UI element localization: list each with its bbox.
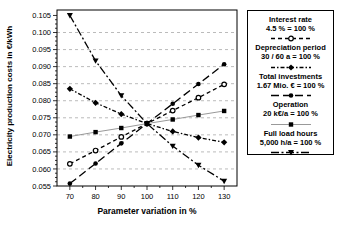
legend-entry-title: Full load hours	[264, 129, 318, 138]
marker-filled-triangle-down	[67, 13, 73, 18]
marker-open-circle	[93, 148, 98, 153]
legend-entry-total-investments: Total investments1.67 Mio. € = 100 %	[249, 72, 332, 100]
legend-entry-title: Depreciation period	[255, 43, 325, 52]
legend-symbol-full-load-hours	[269, 148, 313, 157]
y-axis: 0.0550.0600.0650.0700.0750.0800.0850.090…	[32, 11, 57, 191]
y-gridlines	[57, 33, 237, 169]
plot-frame	[57, 10, 237, 186]
marker-filled-circle	[196, 82, 201, 87]
marker-filled-triangle-down	[221, 179, 227, 184]
marker-filled-square	[222, 109, 226, 113]
marker-filled-circle	[119, 141, 124, 146]
y-tick-label: 0.080	[32, 96, 51, 105]
x-axis-title: Parameter variation in %	[57, 206, 237, 216]
legend-entry-value: 30 / 60 a = 100 %	[261, 52, 320, 61]
legend-entry-title: Total investments	[259, 72, 322, 81]
marker-filled-circle	[93, 161, 98, 166]
legend-entry-interest-rate: Interest rate4.5 % = 100 %	[249, 15, 332, 43]
marker-filled-circle	[68, 181, 73, 186]
marker-filled-square	[171, 117, 175, 121]
marker-filled-square	[288, 122, 292, 126]
y-tick-label: 0.070	[32, 130, 51, 139]
x-tick-label: 80	[91, 192, 99, 201]
x-tick-label: 130	[218, 192, 231, 201]
marker-filled-diamond	[195, 134, 201, 140]
marker-open-circle	[119, 135, 124, 140]
marker-filled-circle	[222, 62, 227, 67]
x-axis: 708090100110120130	[66, 186, 231, 201]
marker-filled-diamond	[118, 111, 124, 117]
x-tick-label: 100	[141, 192, 154, 201]
legend-symbol-total-investments	[269, 91, 313, 100]
marker-filled-square	[93, 130, 97, 134]
marker-open-circle	[196, 95, 201, 100]
marker-open-circle	[288, 37, 293, 42]
legend-entry-depreciation-period: Depreciation period30 / 60 a = 100 %	[249, 43, 332, 71]
y-tick-label: 0.075	[32, 113, 51, 122]
marker-filled-square	[119, 126, 123, 130]
y-tick-label: 0.085	[32, 79, 51, 88]
legend-entry-full-load-hours: Full load hours5,000 h/a = 100 %	[249, 129, 332, 157]
legend-entry-value: 5,000 h/a = 100 %	[260, 138, 322, 147]
y-tick-label: 0.065	[32, 147, 51, 156]
y-tick-label: 0.095	[32, 45, 51, 54]
legend-symbol-interest-rate	[269, 34, 313, 43]
y-tick-label: 0.100	[32, 28, 51, 37]
legend-entry-value: 20 k€/a = 100 %	[263, 109, 318, 118]
y-axis-title: Electricity production costs in €/kWh	[5, 8, 17, 184]
legend-entry-value: 1.67 Mio. € = 100 %	[257, 81, 325, 90]
legend-symbol-depreciation-period	[269, 63, 313, 72]
y-tick-label: 0.090	[32, 62, 51, 71]
y-tick-label: 0.105	[32, 11, 51, 20]
marker-open-circle	[170, 108, 175, 113]
marker-open-circle	[222, 82, 227, 87]
legend-box: Interest rate4.5 % = 100 %Depreciation p…	[247, 10, 334, 155]
marker-filled-diamond	[170, 128, 176, 134]
legend-entry-title: Operation	[273, 100, 308, 109]
y-tick-label: 0.060	[32, 165, 51, 174]
marker-filled-diamond	[67, 86, 73, 92]
legend-entry-value: 4.5 % = 100 %	[266, 24, 315, 33]
x-tick-label: 110	[167, 192, 179, 201]
series-full-load-hours	[67, 13, 227, 184]
marker-filled-square	[68, 134, 72, 138]
x-tick-label: 120	[192, 192, 205, 201]
marker-filled-triangle-down	[93, 58, 99, 63]
marker-filled-diamond	[221, 139, 227, 145]
x-tick-label: 90	[117, 192, 125, 201]
marker-filled-triangle-down	[118, 93, 124, 98]
legend-entry-title: Interest rate	[269, 15, 312, 24]
legend-entry-operation: Operation20 k€/a = 100 %	[249, 100, 332, 128]
marker-filled-square	[196, 113, 200, 117]
x-tick-label: 70	[66, 192, 74, 201]
figure: 0.0550.0600.0650.0700.0750.0800.0850.090…	[0, 0, 337, 229]
y-tick-label: 0.055	[32, 182, 51, 191]
marker-filled-diamond	[287, 64, 293, 70]
marker-filled-circle	[288, 93, 293, 98]
legend-symbol-operation	[269, 120, 313, 129]
marker-filled-triangle-down	[195, 163, 201, 168]
marker-filled-circle	[170, 101, 175, 106]
marker-open-circle	[68, 162, 73, 167]
